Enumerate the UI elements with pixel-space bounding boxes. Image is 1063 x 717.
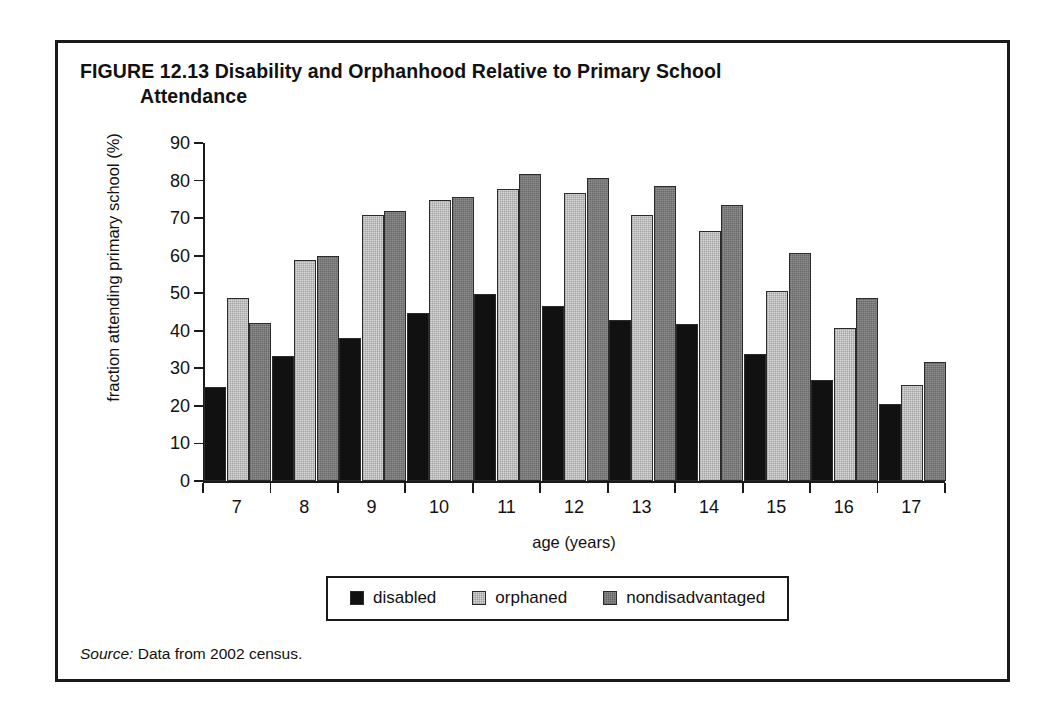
- y-tick-mark: [194, 443, 203, 445]
- bar-nondisadvantaged-age-9: [384, 211, 406, 481]
- bar-nondisadvantaged-age-11: [519, 174, 541, 481]
- bar-orphaned-age-12: [564, 193, 586, 481]
- bar-nondisadvantaged-age-8: [317, 256, 339, 481]
- y-tick-mark: [194, 292, 203, 294]
- x-tick-label: 7: [207, 498, 267, 516]
- figure-panel: FIGURE 12.13 Disability and Orphanhood R…: [55, 40, 1010, 682]
- y-tick-label: 60: [150, 247, 190, 265]
- x-tick-label: 16: [814, 498, 874, 516]
- bar-disabled-age-13: [609, 320, 631, 481]
- x-tick-mark: [337, 483, 339, 493]
- y-tick-mark: [194, 330, 203, 332]
- bar-nondisadvantaged-age-10: [452, 197, 474, 481]
- y-tick-label: 10: [150, 434, 190, 452]
- y-axis-title: fraction attending primary school (%): [104, 103, 123, 433]
- x-tick-mark: [270, 483, 272, 493]
- y-tick-label: 40: [150, 322, 190, 340]
- y-tick-mark: [194, 367, 203, 369]
- bar-nondisadvantaged-age-16: [856, 298, 878, 481]
- bar-nondisadvantaged-age-17: [924, 362, 946, 481]
- x-tick-label: 10: [409, 498, 469, 516]
- x-tick-label: 9: [342, 498, 402, 516]
- bar-orphaned-age-9: [362, 215, 384, 481]
- bar-nondisadvantaged-age-13: [654, 186, 676, 481]
- x-tick-mark: [472, 483, 474, 493]
- y-tick-label: 70: [150, 209, 190, 227]
- y-tick-mark: [194, 217, 203, 219]
- bar-nondisadvantaged-age-7: [249, 323, 271, 481]
- bar-disabled-age-16: [811, 380, 833, 481]
- x-tick-mark: [809, 483, 811, 493]
- bar-disabled-age-10: [407, 313, 429, 481]
- filled-black-square-icon: [350, 591, 364, 605]
- bar-orphaned-age-7: [227, 298, 249, 481]
- bar-orphaned-age-8: [294, 260, 316, 481]
- chart-legend: disabledorphanednondisadvantaged: [326, 576, 789, 621]
- source-note: Source: Data from 2002 census.: [80, 645, 302, 663]
- y-tick-mark: [194, 480, 203, 482]
- x-tick-mark: [607, 483, 609, 493]
- y-tick-label: 20: [150, 397, 190, 415]
- x-tick-label: 15: [746, 498, 806, 516]
- y-tick-label: 80: [150, 172, 190, 190]
- x-tick-label: 14: [679, 498, 739, 516]
- bar-nondisadvantaged-age-15: [789, 253, 811, 481]
- x-tick-mark: [202, 483, 204, 493]
- x-tick-mark: [404, 483, 406, 493]
- legend-item-label: orphaned: [495, 588, 567, 608]
- x-tick-mark: [742, 483, 744, 493]
- source-text: Data from 2002 census.: [138, 645, 303, 662]
- y-tick-label: 0: [150, 472, 190, 490]
- legend-item-label: nondisadvantaged: [626, 588, 765, 608]
- x-tick-label: 12: [544, 498, 604, 516]
- bar-disabled-age-14: [676, 324, 698, 481]
- legend-item-label: disabled: [373, 588, 436, 608]
- bar-disabled-age-7: [204, 387, 226, 481]
- x-tick-label: 13: [611, 498, 671, 516]
- bar-nondisadvantaged-age-14: [721, 205, 743, 481]
- bar-orphaned-age-17: [901, 385, 923, 481]
- bar-disabled-age-9: [339, 338, 361, 481]
- x-axis-line: [203, 481, 945, 483]
- medium-gray-square-icon: [603, 591, 617, 605]
- y-tick-mark: [194, 255, 203, 257]
- x-tick-mark: [674, 483, 676, 493]
- bar-disabled-age-11: [474, 294, 496, 481]
- legend-item-nondisadvantaged: nondisadvantaged: [603, 588, 765, 608]
- legend-item-disabled: disabled: [350, 588, 436, 608]
- bar-disabled-age-12: [542, 306, 564, 481]
- x-tick-mark: [877, 483, 879, 493]
- y-tick-mark: [194, 405, 203, 407]
- x-axis-title: age (years): [203, 533, 945, 552]
- bar-series-layer: [203, 143, 945, 481]
- bar-disabled-age-17: [879, 404, 901, 481]
- bar-orphaned-age-11: [497, 189, 519, 481]
- light-gray-square-icon: [472, 591, 486, 605]
- y-tick-mark: [194, 142, 203, 144]
- bar-disabled-age-8: [272, 356, 294, 481]
- y-tick-label: 50: [150, 284, 190, 302]
- bar-orphaned-age-13: [631, 215, 653, 481]
- y-tick-label: 30: [150, 359, 190, 377]
- bar-orphaned-age-15: [766, 291, 788, 481]
- bar-disabled-age-15: [744, 354, 766, 481]
- legend-item-orphaned: orphaned: [472, 588, 567, 608]
- x-tick-mark: [539, 483, 541, 493]
- y-tick-mark: [194, 180, 203, 182]
- bar-nondisadvantaged-age-12: [587, 178, 609, 481]
- y-tick-label: 90: [150, 134, 190, 152]
- bar-orphaned-age-10: [429, 200, 451, 481]
- x-tick-label: 17: [881, 498, 941, 516]
- bar-orphaned-age-16: [834, 328, 856, 481]
- x-tick-mark: [944, 483, 946, 493]
- x-tick-label: 8: [274, 498, 334, 516]
- source-label: Source:: [80, 645, 133, 662]
- x-tick-label: 11: [477, 498, 537, 516]
- bar-orphaned-age-14: [699, 231, 721, 481]
